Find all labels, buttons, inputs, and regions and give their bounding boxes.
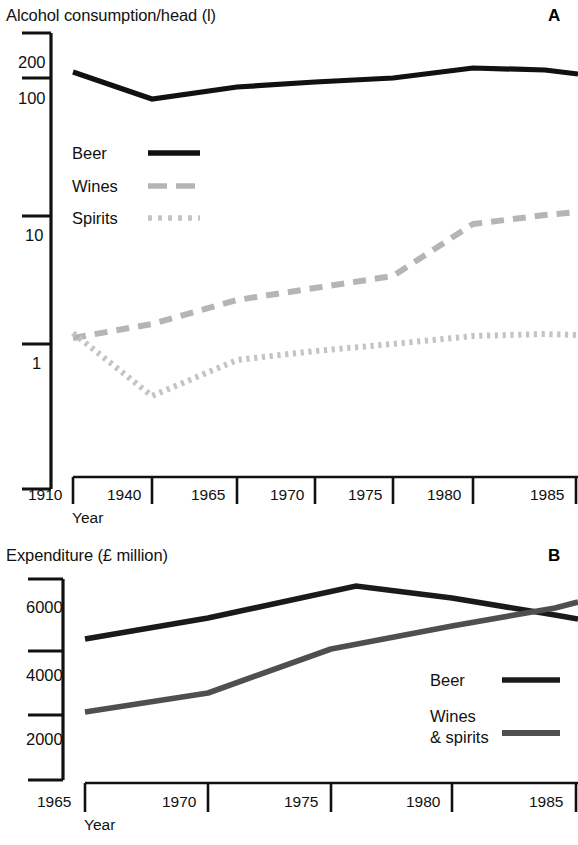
panel-b-xtick-3: 1980 [406, 793, 441, 810]
panel-b-legend-label-wines-2: & spirits [430, 728, 489, 746]
panel-b-xtick-0: 1965 [37, 793, 71, 810]
panel-b-x-caption: Year [84, 816, 115, 834]
panel-a: Alcohol consumption/head (l) A 200 100 1… [0, 0, 578, 530]
panel-b-xtick-1: 1970 [162, 793, 197, 810]
panel-a-ytick-1: 100 [18, 89, 46, 107]
panel-b-xtick-2: 1975 [284, 793, 318, 810]
panel-b-legend-label-wines: Wines [430, 707, 476, 725]
panel-a-legend-label-0: Beer [72, 144, 107, 162]
panel-a-series-wines [73, 212, 578, 338]
panel-b-ytick-1: 4000 [26, 666, 63, 684]
panel-a-ytick-0: 200 [18, 53, 46, 71]
panel-a-plot: 200 100 10 1 1910 1940 1965 1970 1975 19… [0, 0, 578, 530]
panel-a-xtick-3: 1970 [270, 486, 305, 503]
panel-a-x-axis [73, 477, 578, 504]
panel-b-legend: Beer Wines & spirits [430, 671, 560, 746]
panel-a-ytick-3: 1 [32, 354, 41, 372]
panel-a-xtick-4: 1975 [348, 486, 382, 503]
panel-b-legend-label-beer: Beer [430, 671, 465, 689]
panel-b-ytick-0: 6000 [26, 598, 63, 616]
panel-a-series-beer [73, 68, 578, 99]
panel-b-xtick-4: 1985 [529, 793, 563, 810]
panel-b: Expenditure (£ million) B 6000 4000 2000 [0, 530, 578, 845]
panel-a-xtick-6: 1985 [530, 486, 564, 503]
panel-a-xtick-0: 1910 [28, 486, 63, 503]
figure-container: Alcohol consumption/head (l) A 200 100 1… [0, 0, 578, 845]
panel-a-series-spirits [73, 333, 578, 396]
panel-b-ytick-2: 2000 [26, 730, 63, 748]
panel-a-xtick-2: 1965 [191, 486, 225, 503]
panel-a-legend: Beer Wines Spirits [72, 144, 200, 227]
panel-a-xtick-1: 1940 [107, 486, 142, 503]
panel-b-plot: 6000 4000 2000 1965 1970 1975 1980 1985 [0, 530, 578, 845]
panel-a-legend-label-1: Wines [72, 177, 118, 195]
panel-b-series-wines-spirits [85, 602, 578, 712]
panel-b-x-axis [85, 783, 578, 812]
panel-a-ytick-2: 10 [25, 226, 43, 244]
panel-a-legend-label-2: Spirits [72, 209, 118, 227]
panel-b-series-beer [85, 586, 578, 639]
panel-a-xtick-5: 1980 [427, 486, 462, 503]
panel-a-x-caption: Year [72, 509, 103, 527]
